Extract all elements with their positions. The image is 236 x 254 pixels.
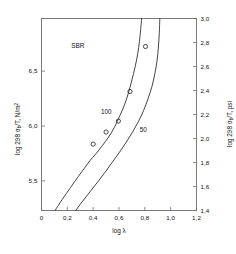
x-tick-label: 1,2	[192, 214, 201, 221]
plot-frame	[42, 19, 197, 211]
y-tick-label-left: 5,5	[29, 177, 38, 184]
y-tick-label-right: 3,0	[201, 15, 210, 22]
x-axis-title: log λ	[112, 227, 126, 234]
annotation-sbr: SBR	[71, 42, 84, 49]
y-tick-label-right: 2,6	[201, 63, 210, 70]
y-tick-label-right: 2,0	[201, 135, 210, 142]
x-tick-label: 0,4	[89, 214, 98, 221]
y-tick-label-left: 6,0	[29, 122, 38, 129]
curve-label-100: 100	[101, 108, 112, 115]
axis-ticks	[42, 19, 197, 211]
y-axis-title-right: log 298 σb/T, psi	[226, 101, 234, 147]
x-tick-label: 0,8	[140, 214, 149, 221]
y-axis-title-left: log 298 σb/T, N/m2	[14, 102, 22, 154]
curve-label-50: 50	[140, 126, 147, 133]
y-tick-label-right: 2,8	[201, 39, 210, 46]
y-tick-label-right: 1,4	[201, 207, 210, 214]
x-tick-label: 0,6	[115, 214, 124, 221]
x-tick-label: 0	[40, 214, 44, 221]
y-tick-label-right: 2,2	[201, 111, 210, 118]
y-tick-label-right: 1,8	[201, 159, 210, 166]
y-tick-label-right: 1,6	[201, 183, 210, 190]
y-tick-label-left: 6,5	[29, 67, 38, 74]
y-tick-label-right: 2,4	[201, 87, 210, 94]
chart-figure: 00,20,40,60,81,01,25,56,06,51,41,61,82,0…	[0, 0, 236, 254]
x-tick-label: 1,0	[166, 214, 175, 221]
x-tick-label: 0,2	[63, 214, 72, 221]
